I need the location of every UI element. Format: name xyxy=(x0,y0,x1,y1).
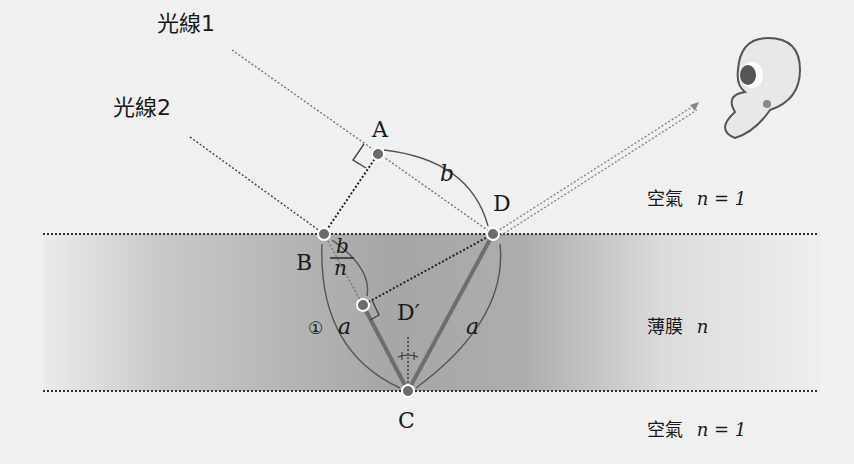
medium-top-index: n = 1 xyxy=(697,188,747,209)
eye-icon xyxy=(725,38,800,138)
medium-bottom-name: 空氣 xyxy=(647,419,683,440)
label-D: D xyxy=(493,191,511,216)
label-A: A xyxy=(371,117,389,142)
point-D xyxy=(487,228,499,240)
label-a-right: a xyxy=(466,314,479,339)
outgoing-ray-b xyxy=(497,110,697,238)
medium-bottom-label: 空氣 n = 1 xyxy=(647,419,746,440)
ray2-label: 光線2 xyxy=(113,95,171,120)
arc-b xyxy=(384,150,488,226)
thin-film-region xyxy=(43,234,819,391)
medium-film-name: 薄膜 xyxy=(647,316,683,337)
point-A xyxy=(372,148,384,160)
label-B: B xyxy=(296,250,312,275)
medium-bottom-index: n = 1 xyxy=(697,419,747,440)
label-b-over-n-den: n xyxy=(334,256,347,280)
ray2-line xyxy=(190,137,324,234)
point-B xyxy=(318,228,330,240)
label-C: C xyxy=(398,408,415,433)
ray1-label: 光線1 xyxy=(157,11,215,36)
label-Dprime: D′ xyxy=(397,300,420,325)
point-Dprime xyxy=(357,299,369,311)
medium-film-label: 薄膜 n xyxy=(647,316,708,337)
thin-film-diagram: 光線1 光線2 A B C D D′ b b n ① a a 空氣 n = 1 … xyxy=(0,0,854,464)
label-b: b xyxy=(440,161,454,186)
marker-1: ① xyxy=(308,318,323,338)
medium-top-name: 空氣 xyxy=(647,188,683,209)
label-b-over-n-num: b xyxy=(336,234,349,258)
medium-top-label: 空氣 n = 1 xyxy=(647,188,746,209)
point-C xyxy=(402,385,414,397)
right-angle-A xyxy=(353,144,366,168)
wavefront-BA xyxy=(324,154,378,234)
label-a-left: a xyxy=(338,314,351,339)
arrow-head-icon xyxy=(690,102,699,111)
ray1-line xyxy=(232,50,493,234)
medium-film-index: n xyxy=(697,316,709,337)
outgoing-ray-a xyxy=(493,105,695,234)
